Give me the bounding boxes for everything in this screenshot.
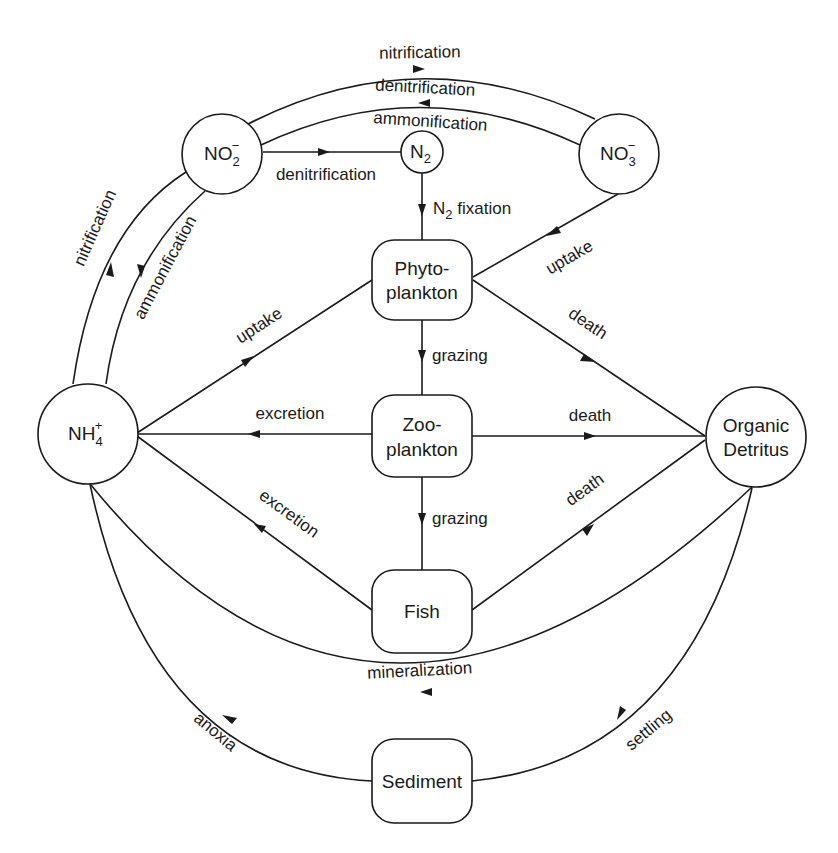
edge-death-fish bbox=[472, 440, 705, 610]
arrow-up-right-icon bbox=[241, 356, 254, 367]
node-sediment: Sediment bbox=[372, 739, 472, 823]
arrow-down-icon bbox=[418, 513, 426, 525]
arrow-down-right-icon bbox=[580, 354, 596, 362]
arrow-up-left-icon bbox=[222, 715, 237, 724]
arrow-up-left-icon bbox=[254, 524, 266, 533]
arrow-down-icon bbox=[418, 204, 426, 216]
label-grazing-phyto: grazing bbox=[432, 346, 488, 365]
arrow-right-icon bbox=[413, 65, 425, 73]
label-excretion-fish: excretion bbox=[256, 486, 323, 542]
label-grazing-zoo: grazing bbox=[432, 509, 488, 528]
arrow-left-icon bbox=[248, 430, 260, 438]
arrow-left-icon bbox=[420, 688, 432, 696]
arrow-down-icon bbox=[418, 350, 426, 362]
svg-text:Detritus: Detritus bbox=[723, 439, 788, 460]
label-nitrification-left: nitrification bbox=[70, 187, 120, 269]
label-denitrification-top: denitrification bbox=[375, 75, 476, 99]
arrow-left-icon bbox=[418, 99, 430, 107]
arrow-down-left-icon bbox=[617, 706, 626, 720]
node-zooplankton: Zoo- plankton bbox=[372, 395, 472, 477]
node-no2: NO2− bbox=[182, 114, 262, 194]
edge-grazing-phyto bbox=[418, 320, 426, 395]
label-excretion-zoo: excretion bbox=[256, 404, 325, 423]
edge-excretion-fish bbox=[137, 436, 372, 610]
node-nh4: NH4+ bbox=[38, 384, 138, 484]
label-n2-fixation: N2 fixation bbox=[433, 199, 511, 222]
node-no3: NO3− bbox=[579, 114, 659, 194]
node-fish: Fish bbox=[372, 570, 472, 653]
edge-grazing-zoo bbox=[418, 475, 426, 570]
node-phytoplankton: Phyto- plankton bbox=[372, 240, 472, 320]
svg-text:plankton: plankton bbox=[386, 439, 458, 460]
svg-text:Zoo-: Zoo- bbox=[402, 414, 441, 435]
edge-n2-fixation bbox=[418, 173, 426, 240]
arrow-right-icon bbox=[584, 432, 596, 440]
nitrogen-cycle-diagram: nitrification denitrification ammonifica… bbox=[0, 0, 838, 853]
arrow-right-icon bbox=[318, 148, 330, 156]
svg-text:Fish: Fish bbox=[404, 601, 440, 622]
node-n2: N2 bbox=[401, 131, 443, 173]
edge-excretion-zoo bbox=[137, 430, 372, 438]
label-denitrification-n2: denitrification bbox=[276, 165, 376, 184]
label-settling: settling bbox=[622, 705, 675, 754]
svg-text:Phyto-: Phyto- bbox=[395, 258, 450, 279]
label-uptake-no3: uptake bbox=[542, 236, 596, 278]
edge-denitrification-n2 bbox=[263, 148, 401, 156]
label-death-fish: death bbox=[562, 469, 608, 509]
edge-settling bbox=[472, 488, 752, 781]
label-death-phyto: death bbox=[565, 304, 611, 344]
label-nitrification-top: nitrification bbox=[379, 42, 461, 62]
node-organic-detritus: Organic Detritus bbox=[706, 387, 806, 487]
svg-text:Sediment: Sediment bbox=[382, 771, 463, 792]
edge-death-zoo bbox=[472, 432, 705, 440]
edge-uptake-nh4 bbox=[137, 280, 372, 433]
label-ammonification-top: ammonification bbox=[373, 108, 488, 135]
label-death-zoo: death bbox=[569, 406, 612, 425]
svg-text:plankton: plankton bbox=[386, 282, 458, 303]
label-anoxia: anoxia bbox=[190, 708, 241, 755]
svg-text:Organic: Organic bbox=[723, 415, 790, 436]
